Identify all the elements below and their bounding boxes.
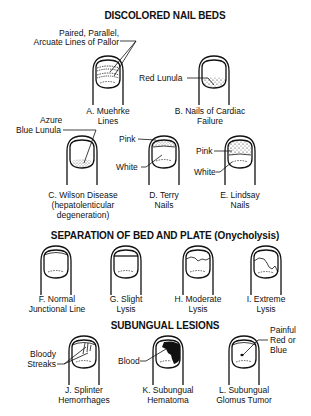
callout-bloody: Bloody: [18, 349, 56, 359]
caption-a-line2: Lines: [78, 116, 138, 126]
caption-c-line3: degeneration): [38, 210, 128, 220]
nail-e-lindsay-nails-illustration: [222, 135, 258, 185]
caption-f-line2: Junctional Line: [22, 304, 92, 314]
callout-blue-lunula: Blue Lunula: [16, 125, 61, 135]
caption-j-line1: J. Splinter: [54, 385, 114, 395]
caption-a-line1: A. Muehrke: [78, 106, 138, 116]
callout-red-or: Red or: [270, 335, 296, 345]
nail-i-extreme-lysis-illustration: [248, 245, 284, 295]
nail-d-terry-nails-illustration: [146, 135, 182, 185]
caption-d-line1: D. Terry: [134, 190, 194, 200]
caption-k-line2: Hematoma: [133, 395, 203, 405]
caption-g-line2: Lysis: [96, 304, 156, 314]
nail-f-normal-junctional-line-illustration: [38, 245, 74, 295]
callout-pink-e: Pink: [196, 146, 213, 156]
callout-white-d: White: [116, 162, 138, 172]
callout-blue: Blue: [270, 345, 287, 355]
callout-blood: Blood: [118, 356, 140, 366]
callout-white-e: White: [194, 167, 216, 177]
caption-b-line2: Failure: [168, 116, 252, 126]
nail-b-cardiac-failure-illustration: [196, 55, 232, 105]
caption-b-line1: B. Nails of Cardiac: [168, 106, 252, 116]
callout-pink-d: Pink: [119, 134, 136, 144]
callout-painful: Painful: [270, 325, 296, 335]
caption-i-line1: I. Extreme: [236, 294, 296, 304]
nail-a-muehrke-lines-illustration: [90, 55, 126, 105]
nail-c-wilson-disease-illustration: [64, 135, 100, 185]
caption-f-line1: F. Normal: [22, 294, 92, 304]
caption-g-line1: G. Slight: [96, 294, 156, 304]
caption-i-line2: Lysis: [236, 304, 296, 314]
section-title-subungual-lesions: SUBUNGUAL LESIONS: [100, 320, 230, 331]
caption-e-line2: Nails: [210, 200, 270, 210]
nail-h-moderate-lysis-illustration: [180, 245, 216, 295]
callout-streaks: Streaks: [18, 359, 56, 369]
caption-c-line2: (hepatolenticular: [38, 200, 128, 210]
caption-h-line1: H. Moderate: [163, 294, 233, 304]
caption-e-line1: E. Lindsay: [210, 190, 270, 200]
caption-l-line1: L. Subungual: [209, 385, 279, 395]
nail-g-slight-lysis-illustration: [108, 245, 144, 295]
nail-j-splinter-hemorrhages-illustration: [66, 335, 102, 385]
caption-h-line2: Lysis: [163, 304, 233, 314]
caption-k-line1: K. Subungual: [133, 385, 203, 395]
caption-c-line1: C. Wilson Disease: [38, 190, 128, 200]
callout-arcuate-lines: Arcuate Lines of Pallor: [20, 37, 119, 47]
nail-k-subungual-hematoma-illustration: [150, 335, 186, 385]
section-title-discolored-nail-beds: DISCOLORED NAIL BEDS: [100, 10, 230, 21]
section-title-onycholysis: SEPARATION OF BED AND PLATE (Onycholysis…: [40, 230, 290, 241]
caption-l-line2: Glomus Tumor: [209, 395, 279, 405]
nail-l-glomus-tumor-illustration: [226, 335, 262, 385]
callout-red-lunula: Red Lunula: [139, 73, 182, 83]
caption-d-line2: Nails: [134, 200, 194, 210]
caption-j-line2: Hemorrhages: [54, 395, 114, 405]
callout-azure: Azure: [40, 115, 62, 125]
